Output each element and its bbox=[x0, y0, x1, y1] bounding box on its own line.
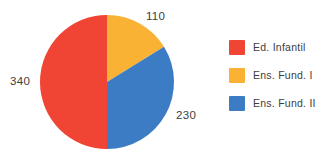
legend-item-label: Ed. Infantil bbox=[253, 42, 306, 53]
pie-chart-figure: 110 340 230 Ed. Infantil Ens. Fund. I En… bbox=[0, 0, 317, 155]
pie-slice-ed-infantil[interactable] bbox=[40, 15, 107, 149]
legend-swatch-icon bbox=[229, 68, 245, 83]
chart-legend: Ed. Infantil Ens. Fund. I Ens. Fund. II bbox=[229, 38, 317, 113]
legend-item-ens-fund-i[interactable]: Ens. Fund. I bbox=[229, 66, 317, 85]
pie-slices bbox=[40, 15, 174, 149]
legend-swatch-icon bbox=[229, 40, 245, 55]
pie-chart-plot-area: 110 340 230 bbox=[0, 0, 195, 155]
legend-swatch-icon bbox=[229, 96, 245, 111]
slice-value-label-110: 110 bbox=[146, 11, 165, 23]
slice-value-label-340: 340 bbox=[10, 76, 30, 88]
legend-item-label: Ens. Fund. II bbox=[253, 98, 316, 109]
legend-item-ens-fund-ii[interactable]: Ens. Fund. II bbox=[229, 94, 317, 113]
legend-item-ed-infantil[interactable]: Ed. Infantil bbox=[229, 38, 317, 57]
legend-item-label: Ens. Fund. I bbox=[253, 70, 313, 81]
slice-value-label-230: 230 bbox=[176, 110, 196, 122]
